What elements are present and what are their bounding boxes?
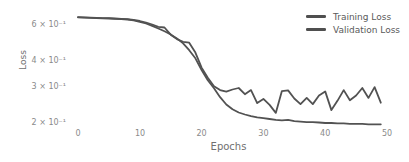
legend-item-training-loss: Training Loss <box>306 10 400 23</box>
legend: Training Loss Validation Loss <box>306 10 400 36</box>
x-tick-label: 50 <box>372 129 402 139</box>
y-tick-label: 2 × 10⁻¹ <box>0 118 66 128</box>
y-tick-label: 6 × 10⁻¹ <box>0 20 66 30</box>
y-axis-label: Loss <box>17 45 29 75</box>
training-loss-line-swatch <box>306 15 326 18</box>
loss-curve-figure: 6 × 10⁻¹ 4 × 10⁻¹ 3 × 10⁻¹ 2 × 10⁻¹ 0 10… <box>0 0 409 162</box>
x-tick-label: 30 <box>248 129 278 139</box>
legend-label: Validation Loss <box>333 25 400 35</box>
x-tick-label: 10 <box>125 129 155 139</box>
y-tick-label: 4 × 10⁻¹ <box>0 56 66 66</box>
legend-label: Training Loss <box>333 12 391 22</box>
x-axis-label: Epochs <box>186 141 271 152</box>
x-tick-label: 20 <box>187 129 217 139</box>
validation-loss-line-swatch <box>306 28 326 31</box>
x-tick-label: 40 <box>310 129 340 139</box>
x-tick-label: 0 <box>63 129 93 139</box>
y-tick-label: 3 × 10⁻¹ <box>0 82 66 92</box>
legend-item-validation-loss: Validation Loss <box>306 23 400 36</box>
